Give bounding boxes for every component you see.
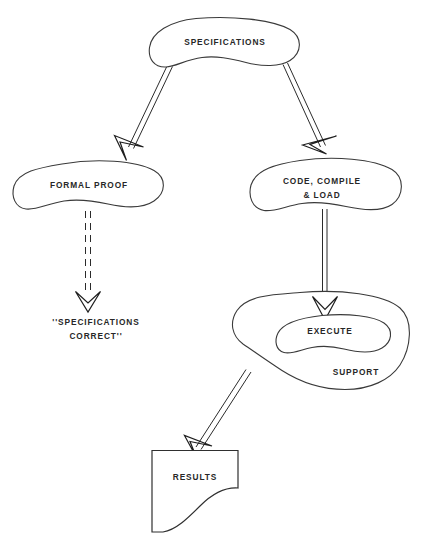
node-formal-proof[interactable]: FORMAL PROOF — [13, 161, 163, 209]
flowchart-svg: SPECIFICATIONS FORMAL PROOF CODE, COMPIL… — [0, 0, 424, 550]
edge-specifications-to-formal-proof — [115, 65, 173, 161]
edge-support-to-results — [185, 370, 252, 458]
formal-proof-label: FORMAL PROOF — [50, 180, 128, 190]
execute-label: EXECUTE — [307, 326, 353, 336]
edge-specifications-to-code-compile — [283, 63, 337, 154]
specifications-correct-label-line1: ''SPECIFICATIONS — [52, 317, 139, 327]
edge-formal-proof-to-specifications-correct — [76, 211, 101, 312]
node-specifications[interactable]: SPECIFICATIONS — [149, 18, 299, 67]
node-code-compile[interactable]: CODE, COMPILE & LOAD — [250, 158, 401, 210]
specifications-correct-label-line2: CORRECT'' — [69, 331, 122, 341]
node-specifications-correct: ''SPECIFICATIONS CORRECT'' — [52, 317, 139, 341]
support-label: SUPPORT — [333, 367, 379, 377]
edge-code-compile-to-execute — [323, 209, 328, 295]
node-results[interactable]: RESULTS — [152, 451, 238, 533]
results-shape — [152, 451, 238, 533]
arrowhead-open-v — [76, 292, 101, 313]
specifications-label: SPECIFICATIONS — [184, 37, 266, 47]
arrowhead-open-v — [115, 136, 144, 161]
results-label: RESULTS — [173, 472, 217, 482]
code-compile-label-line1: CODE, COMPILE — [283, 176, 361, 186]
code-compile-label-line2: & LOAD — [303, 190, 340, 200]
diagram-canvas: SPECIFICATIONS FORMAL PROOF CODE, COMPIL… — [0, 0, 424, 550]
